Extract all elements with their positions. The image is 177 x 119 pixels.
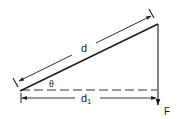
d1-label: d1 — [81, 92, 91, 105]
d-label: d — [81, 42, 87, 54]
force-label: F — [164, 106, 170, 117]
theta-label: θ — [49, 78, 54, 89]
d1-label-subscript: 1 — [87, 98, 91, 105]
hypotenuse-line — [20, 24, 158, 91]
force-inclination-diagram: d d1 θ F — [0, 0, 177, 119]
d-left-tick — [13, 78, 18, 87]
